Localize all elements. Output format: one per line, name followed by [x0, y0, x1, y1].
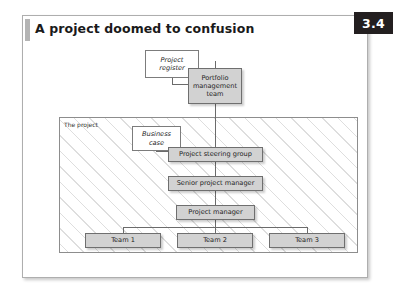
- node-team-1-label: Team 1: [111, 236, 135, 244]
- node-portfolio-management-team: Portfoliomanagementteam: [188, 68, 242, 104]
- node-project-manager-label: Project manager: [188, 208, 242, 216]
- node-business-case-line-1: Business: [142, 130, 171, 138]
- node-project-steering-group-label: Project steering group: [179, 150, 252, 158]
- node-project-manager: Project manager: [176, 205, 255, 220]
- node-senior-project-manager: Senior project manager: [168, 176, 263, 191]
- node-team-1: Team 1: [85, 233, 161, 248]
- node-project-register-label: Projectregister: [159, 56, 185, 72]
- node-project-register-line-2: register: [159, 64, 185, 72]
- node-project-steering-group: Project steering group: [168, 147, 263, 162]
- title-accent-bar: [25, 19, 30, 41]
- connector-register-to-portfolio: [172, 84, 188, 85]
- node-portfolio-line-1: Portfolio: [201, 74, 228, 82]
- figure-page: A project doomed to confusion 3.4 The pr…: [0, 0, 419, 300]
- node-senior-project-manager-label: Senior project manager: [177, 179, 255, 187]
- node-team-3-label: Team 3: [295, 236, 319, 244]
- node-portfolio-line-2: management: [193, 82, 237, 90]
- page-title: A project doomed to confusion: [35, 21, 254, 36]
- project-boundary-label: The project: [64, 121, 98, 128]
- node-business-case-line-2: case: [149, 139, 164, 147]
- connector-steering-to-senior-pm: [215, 162, 216, 176]
- node-portfolio-label: Portfoliomanagementteam: [193, 74, 237, 98]
- node-business-case-label: Businesscase: [142, 130, 171, 146]
- node-team-2-label: Team 2: [203, 236, 227, 244]
- connector-portfolio-to-steering: [215, 104, 216, 147]
- node-project-register-line-1: Project: [161, 56, 184, 64]
- node-team-3: Team 3: [269, 233, 345, 248]
- node-team-2: Team 2: [177, 233, 253, 248]
- connector-senior-pm-to-project-manager: [215, 191, 216, 205]
- node-portfolio-line-3: team: [206, 90, 223, 98]
- figure-number-badge: 3.4: [354, 12, 393, 34]
